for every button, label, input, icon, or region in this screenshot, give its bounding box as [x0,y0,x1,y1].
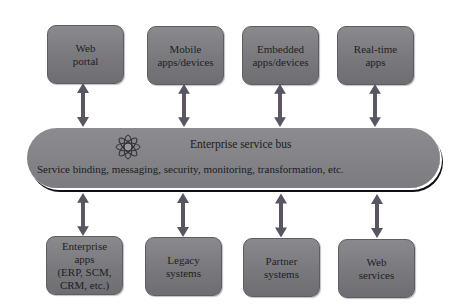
bidirectional-arrow-icon [77,83,89,127]
enterprise-service-bus [27,128,440,188]
node-partner-systems: Partner systems [243,238,320,297]
node-embedded-apps: Embedded apps/devices [242,26,319,85]
bidirectional-arrow-icon [369,84,381,127]
node-mobile-apps: Mobile apps/devices [147,26,224,85]
bidirectional-arrow-icon [274,84,286,127]
node-web-portal: Web portal [47,25,124,84]
node-legacy-systems: Legacy systems [145,237,222,296]
node-web-services: Web services [338,239,415,298]
bus-subtitle: Service binding, messaging, security, mo… [37,163,437,175]
bidirectional-arrow-icon [275,193,287,238]
atom-flower-icon [113,132,143,162]
bidirectional-arrow-icon [371,193,383,239]
bidirectional-arrow-icon [77,193,89,236]
bidirectional-arrow-icon [178,84,190,127]
bidirectional-arrow-icon [177,193,189,237]
node-enterprise-apps: Enterprise apps (ERP, SCM, CRM, etc.) [46,236,123,295]
node-realtime-apps: Real-time apps [337,26,414,85]
bus-title: Enterprise service bus [190,138,292,150]
